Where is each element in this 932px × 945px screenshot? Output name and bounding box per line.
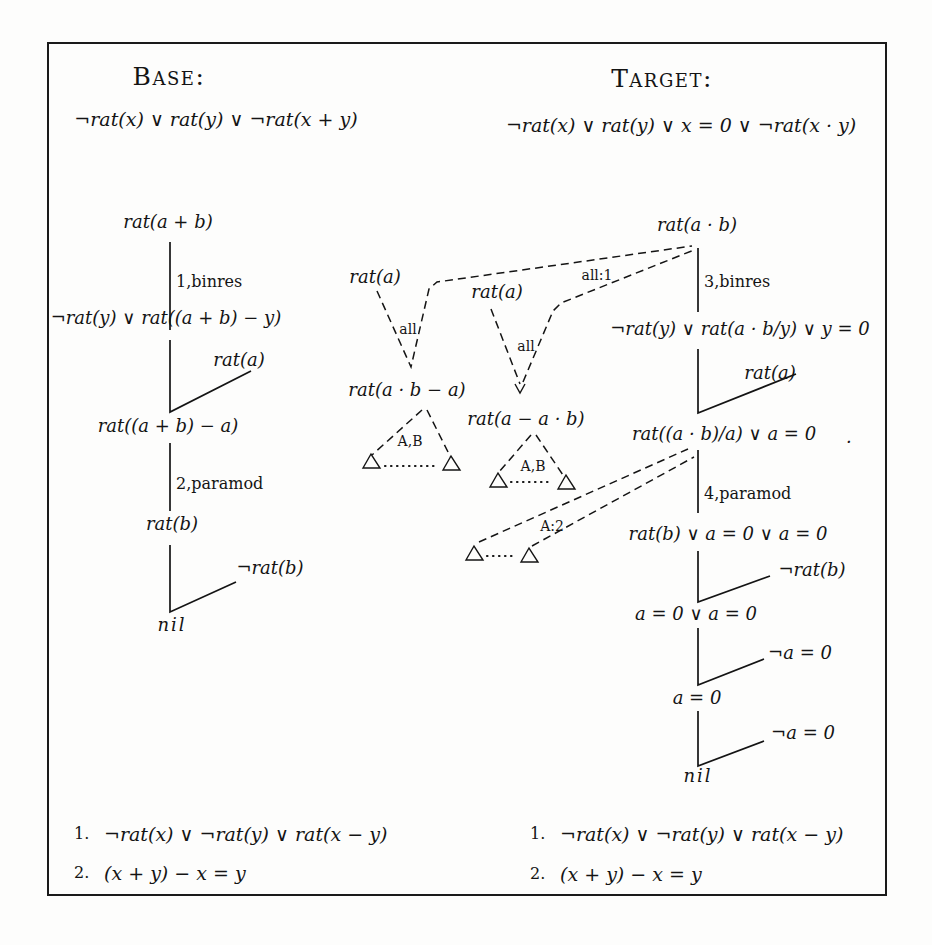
target-node2: ¬rat(y) ∨ rat(a · b/y) ∨ y = 0 [610,320,870,338]
analogy-lemma-left: rat(a · b − a) [348,381,465,399]
target-edge-resolve-not-rat-b [698,551,770,602]
target-input-clause: ¬rat(x) ∨ rat(y) ∨ x = 0 ∨ ¬rat(x · y) [506,116,856,135]
target-node3-period: . [846,428,852,446]
base-node4: rat(b) [146,515,198,533]
derivation-lines-layer [0,0,932,945]
base-side-premise1: rat(a) [213,351,264,369]
base-input-clause: ¬rat(x) ∨ rat(y) ∨ ¬rat(x + y) [74,110,357,129]
target-node3: rat((a · b)/a) ∨ a = 0 [632,425,816,443]
base-title: Base: [133,64,206,89]
analogy-lemma-right: rat(a − a · b) [467,410,584,428]
target-axiom2-formula: (x + y) − x = y [560,865,702,884]
target-axiom1-number: 1. [530,826,545,842]
analogy-a2-ref-label: A:2 [540,519,564,533]
base-step1-label: 1,binres [176,274,242,290]
base-step2-label: 2,paramod [176,476,263,492]
target-side-premise3: ¬a = 0 [768,644,832,662]
target-side-premise1: rat(a) [744,364,795,382]
target-axiom1-formula: ¬rat(x) ∨ ¬rat(y) ∨ rat(x − y) [560,825,843,844]
delta-triangle-icon [363,454,380,468]
base-edge-resolve-not-rat-b [170,545,236,612]
delta-triangle-icon [490,473,507,487]
analogy-ab-label-right: A,B [521,459,546,473]
target-node4: rat(b) ∨ a = 0 ∨ a = 0 [629,525,828,543]
delta-triangle-icon [558,475,575,489]
target-step1-label: 3,binres [704,274,770,290]
base-root-node: rat(a + b) [123,213,212,231]
analogy-rat-a-left: rat(a) [349,268,400,286]
analogy-all-label-right: all [517,339,534,353]
figure-canvas: Base: ¬rat(x) ∨ rat(y) ∨ ¬rat(x + y) Tar… [0,0,932,945]
target-node5: a = 0 ∨ a = 0 [635,605,757,623]
base-node2: ¬rat(y) ∨ rat((a + b) − y) [51,309,282,327]
analogy-all1-ref-label: all:1 [582,268,613,282]
analogy-all-label-left: all [399,322,416,336]
delta-triangle-icon [443,456,460,470]
analogy-ab-label-left: A,B [398,434,423,448]
analogy-rat-a-right: rat(a) [471,283,522,301]
base-axiom2-number: 2. [74,865,89,881]
target-side-premise2: ¬rat(b) [778,561,845,579]
target-side-premise4: ¬a = 0 [771,724,835,742]
base-leaf-nil: nil [157,616,186,634]
arrowhead-down-icon [515,384,525,393]
target-leaf-nil: nil [683,767,712,785]
base-axiom1-formula: ¬rat(x) ∨ ¬rat(y) ∨ rat(x − y) [104,825,387,844]
base-side-premise2: ¬rat(b) [236,559,303,577]
base-axiom2-formula: (x + y) − x = y [104,864,246,883]
delta-triangle-icon [466,546,483,560]
base-axiom1-number: 1. [74,826,89,842]
target-step2-label: 4,paramod [704,486,791,502]
delta-triangle-icon [521,548,538,562]
target-node6: a = 0 [673,689,722,707]
target-root-node: rat(a · b) [657,216,737,234]
target-edge-resolve-not-a0-2 [698,711,764,766]
target-axiom2-number: 2. [530,866,545,882]
target-title: Target: [611,66,713,91]
target-edge-resolve-not-a0-1 [698,628,764,685]
base-node3: rat((a + b) − a) [98,417,239,435]
